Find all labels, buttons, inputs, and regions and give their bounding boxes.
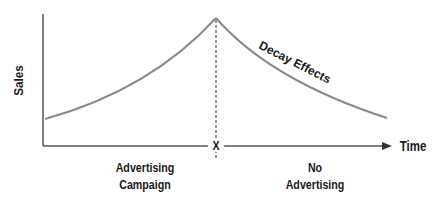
- y-axis-label: Sales: [10, 63, 27, 99]
- advertising-campaign-label: Advertising Campaign: [75, 159, 214, 193]
- x-axis-label: Time: [397, 138, 430, 155]
- x-axis-arrowhead: [382, 142, 392, 150]
- advertising-campaign-line2: Campaign: [75, 176, 214, 193]
- no-advertising-line2: Advertising: [245, 176, 384, 193]
- advertising-campaign-line1: Advertising: [75, 159, 214, 176]
- growth-curve: [45, 18, 216, 119]
- no-advertising-line1: No: [245, 159, 384, 176]
- peak-marker-label: X: [208, 139, 224, 152]
- no-advertising-label: No Advertising: [245, 159, 384, 193]
